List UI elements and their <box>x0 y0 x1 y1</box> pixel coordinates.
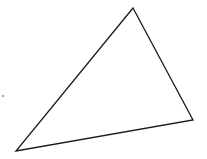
triangle-diagram <box>0 0 207 159</box>
triangle <box>16 8 193 151</box>
stray-dot <box>2 95 4 97</box>
